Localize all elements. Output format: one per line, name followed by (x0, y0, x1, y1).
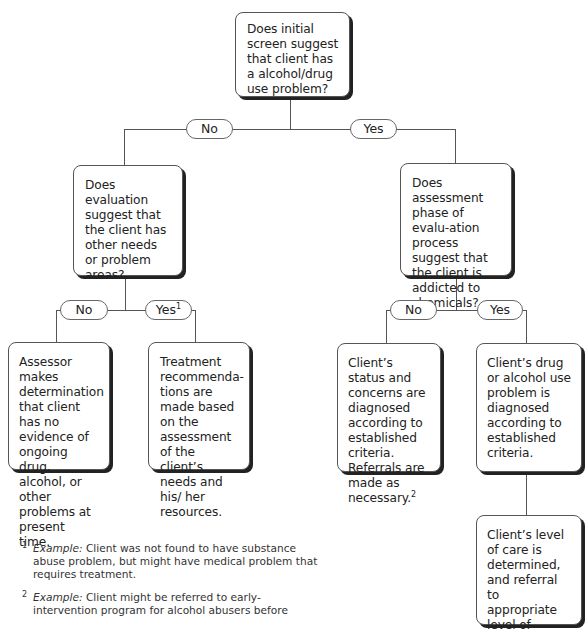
connector-to-no-problem (56, 310, 57, 342)
connector-root-horizontal (124, 129, 456, 130)
connector-to-right-question (455, 129, 456, 163)
left-question-box: Does evaluation suggest that the client … (73, 165, 183, 276)
right-no-label: No (390, 300, 437, 320)
connector-left-question-down (125, 276, 126, 310)
right-question-text: Does assessment phase of evalu-ation pro… (412, 176, 488, 310)
connector-root-down (290, 97, 291, 129)
connector-to-left-question (124, 129, 125, 165)
no-problem-text: Assessor makes determination that client… (19, 355, 104, 549)
connector-to-treatment (195, 310, 196, 342)
footnote-2: 2Example: Client might be referred to ea… (22, 591, 322, 617)
treatment-recommendations-text: Treatment recommenda-tions are made base… (160, 355, 244, 519)
use-problem-diagnosed-box: Client’s drug or alcohol use problem is … (476, 343, 582, 472)
status-diagnosed-box: Client’s status and concerns are diagnos… (337, 343, 441, 472)
footnotes: 1Example: Client was not found to have s… (22, 542, 322, 627)
left-yes-label: Yes1 (145, 300, 192, 320)
no-problem-box: Assessor makes determination that client… (8, 342, 110, 470)
root-no-label: No (186, 119, 233, 139)
root-question-text: Does initial screen suggest that client … (247, 22, 338, 96)
root-yes-label: Yes (350, 119, 397, 139)
level-of-care-box: Client’s level of care is determined, an… (476, 515, 582, 625)
connector-to-status-diagnosed (386, 310, 387, 343)
footnote-1: 1Example: Client was not found to have s… (22, 542, 322, 581)
footnote-ref-1: 1 (176, 302, 181, 311)
left-question-text: Does evaluation suggest that the client … (85, 178, 166, 282)
level-of-care-text: Client’s level of care is determined, an… (487, 528, 564, 632)
left-no-label: No (60, 300, 108, 320)
root-question-box: Does initial screen suggest that client … (235, 12, 350, 97)
connector-to-level-of-care (526, 472, 527, 515)
right-question-box: Does assessment phase of evalu-ation pro… (400, 163, 512, 276)
connector-to-use-diagnosed (526, 310, 527, 343)
right-yes-label: Yes (477, 300, 523, 320)
footnote-ref-2: 2 (411, 490, 416, 499)
status-diagnosed-text: Client’s status and concerns are diagnos… (348, 356, 425, 505)
treatment-recommendations-box: Treatment recommenda-tions are made base… (148, 342, 250, 470)
use-problem-diagnosed-text: Client’s drug or alcohol use problem is … (487, 356, 571, 460)
